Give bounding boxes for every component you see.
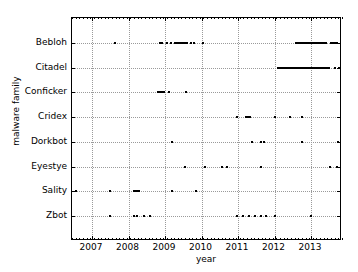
x-minor-tick-top bbox=[196, 17, 197, 19]
x-minor-tick-top bbox=[273, 17, 274, 19]
x-minor-tick-top bbox=[211, 17, 212, 19]
y-tick-label-bebloh: Bebloh bbox=[36, 37, 67, 47]
x-minor-tick bbox=[262, 238, 263, 240]
x-minor-tick-top bbox=[342, 17, 343, 19]
x-minor-tick-top bbox=[101, 17, 102, 19]
y-tick-label-eyestye: Eyestye bbox=[31, 161, 67, 171]
x-minor-tick-top bbox=[265, 17, 266, 19]
x-minor-tick bbox=[229, 238, 230, 240]
plot-axes-frame bbox=[71, 17, 341, 240]
x-minor-tick bbox=[76, 238, 77, 240]
x-minor-tick-top bbox=[203, 17, 204, 19]
x-minor-tick-top bbox=[324, 17, 325, 19]
x-tick-label-2010: 2010 bbox=[189, 242, 212, 252]
x-minor-tick bbox=[287, 238, 288, 240]
x-minor-tick bbox=[233, 238, 234, 240]
data-point-eyestye bbox=[329, 166, 331, 168]
x-minor-tick-top bbox=[156, 17, 157, 19]
data-point-conficker bbox=[168, 91, 170, 93]
y-tick-conficker bbox=[71, 92, 75, 93]
data-point-eyestye bbox=[226, 166, 228, 168]
x-minor-tick bbox=[94, 238, 95, 240]
x-minor-tick-top bbox=[171, 17, 172, 19]
x-minor-tick bbox=[298, 238, 299, 240]
data-point-zbot bbox=[248, 215, 250, 217]
data-point-sality bbox=[195, 190, 197, 192]
x-minor-tick-top bbox=[178, 17, 179, 19]
data-point-zbot bbox=[109, 215, 111, 217]
x-minor-tick-top bbox=[295, 17, 296, 19]
x-minor-tick bbox=[225, 238, 226, 240]
data-segment-citadel bbox=[277, 67, 330, 69]
x-minor-tick bbox=[105, 238, 106, 240]
x-minor-tick bbox=[130, 238, 131, 240]
y-tick-right-bebloh bbox=[337, 43, 341, 44]
x-minor-tick bbox=[174, 238, 175, 240]
x-minor-tick bbox=[156, 238, 157, 240]
data-point-zbot bbox=[236, 215, 238, 217]
x-minor-tick-top bbox=[145, 17, 146, 19]
x-minor-tick-top bbox=[233, 17, 234, 19]
data-segment-conficker bbox=[157, 91, 164, 93]
x-minor-tick-top bbox=[134, 17, 135, 19]
data-point-eyestye bbox=[184, 166, 186, 168]
x-minor-tick bbox=[247, 238, 248, 240]
x-minor-tick bbox=[243, 238, 244, 240]
x-minor-tick-top bbox=[251, 17, 252, 19]
x-minor-tick-top bbox=[327, 17, 328, 19]
x-minor-tick bbox=[181, 238, 182, 240]
x-minor-tick bbox=[222, 238, 223, 240]
data-segment-bebloh bbox=[295, 42, 326, 44]
data-point-dorkbot bbox=[171, 141, 173, 143]
y-tick-right-citadel bbox=[337, 68, 341, 69]
x-minor-tick bbox=[134, 238, 135, 240]
x-minor-tick bbox=[327, 238, 328, 240]
x-minor-tick bbox=[123, 238, 124, 240]
plot-data-area bbox=[72, 18, 340, 239]
data-point-zbot bbox=[136, 215, 138, 217]
x-minor-tick bbox=[291, 238, 292, 240]
x-minor-tick bbox=[127, 238, 128, 240]
data-point-eyestye bbox=[221, 166, 223, 168]
x-minor-tick-top bbox=[331, 17, 332, 19]
x-minor-tick bbox=[112, 238, 113, 240]
data-point-dorkbot bbox=[260, 141, 262, 143]
y-tick-right-dorkbot bbox=[337, 142, 341, 143]
x-minor-tick bbox=[160, 238, 161, 240]
x-minor-tick-top bbox=[225, 17, 226, 19]
x-minor-tick bbox=[211, 238, 212, 240]
data-point-sality bbox=[109, 190, 111, 192]
x-minor-tick-top bbox=[247, 17, 248, 19]
data-segment-sality bbox=[133, 190, 141, 192]
y-tick-sality bbox=[71, 191, 75, 192]
x-minor-tick-top bbox=[254, 17, 255, 19]
x-minor-tick bbox=[108, 238, 109, 240]
y-axis-title: malware family bbox=[11, 51, 21, 171]
x-minor-tick bbox=[306, 238, 307, 240]
data-point-conficker bbox=[185, 91, 187, 93]
x-minor-tick-top bbox=[127, 17, 128, 19]
x-tick-label-2009: 2009 bbox=[153, 242, 176, 252]
gridline-y-sality bbox=[72, 191, 340, 192]
x-tick-label-2012: 2012 bbox=[262, 242, 285, 252]
data-point-zbot bbox=[254, 215, 256, 217]
x-minor-tick-top bbox=[87, 17, 88, 19]
x-minor-tick bbox=[138, 238, 139, 240]
x-minor-tick bbox=[302, 238, 303, 240]
x-minor-tick bbox=[83, 238, 84, 240]
gridline-y-zbot bbox=[72, 216, 340, 217]
y-tick-right-zbot bbox=[337, 216, 341, 217]
y-tick-label-citadel: Citadel bbox=[35, 62, 67, 72]
x-minor-tick-top bbox=[174, 17, 175, 19]
x-minor-tick-top bbox=[302, 17, 303, 19]
x-minor-tick-top bbox=[200, 17, 201, 19]
x-minor-tick-top bbox=[258, 17, 259, 19]
x-minor-tick bbox=[152, 238, 153, 240]
data-point-citadel bbox=[334, 67, 336, 69]
x-minor-tick bbox=[251, 238, 252, 240]
x-minor-tick bbox=[203, 238, 204, 240]
data-point-cridex bbox=[236, 116, 238, 118]
x-minor-tick-top bbox=[291, 17, 292, 19]
gridline-x-2010 bbox=[202, 18, 203, 239]
x-minor-tick bbox=[240, 238, 241, 240]
